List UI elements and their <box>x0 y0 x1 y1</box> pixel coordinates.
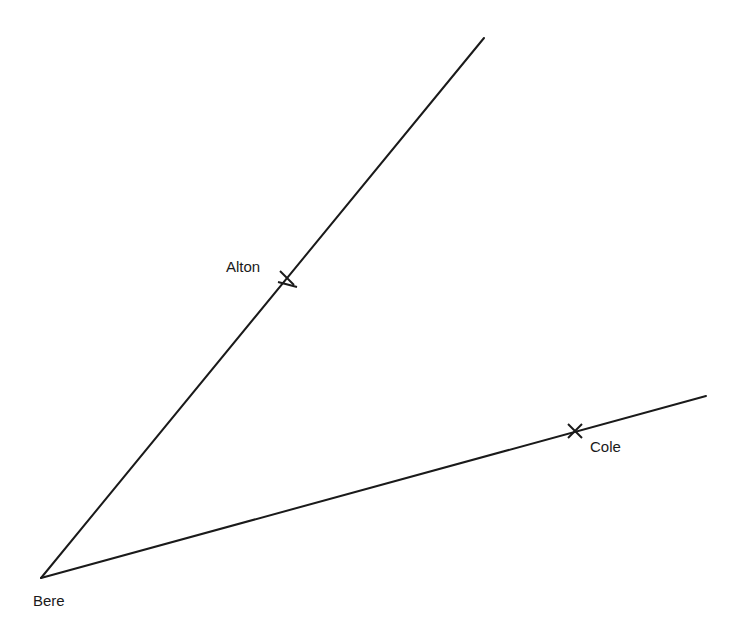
diagram-canvas: Alton Cole Bere <box>0 0 734 634</box>
line-bere-to-cole <box>41 396 706 578</box>
bere-label: Bere <box>33 592 65 609</box>
alton-label: Alton <box>226 258 260 275</box>
line-bere-to-alton <box>41 38 484 578</box>
cole-label: Cole <box>590 438 621 455</box>
